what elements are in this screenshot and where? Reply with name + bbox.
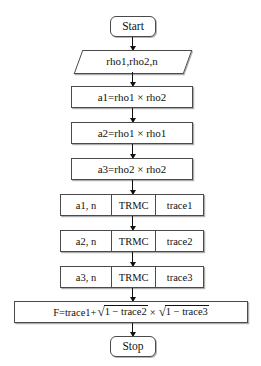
formula-radical-2: √1 − trace3 [158,304,209,320]
subroutine-1-output: trace1 [156,195,203,215]
arrow-p2-to-p3 [132,144,133,158]
subroutine-3-input: a3, n [61,267,112,287]
node-start[interactable]: Start [110,16,156,37]
subroutine-1-input: a1, n [61,195,112,215]
formula-operator: × [148,307,158,318]
node-formula[interactable]: F=trace1+√1 − trace2×√1 − trace3 [14,301,248,323]
subroutine-3-output: trace3 [156,267,203,287]
node-process-a2[interactable]: a2=rho1 × rho1 [71,122,193,144]
arrow-start-to-input [132,37,133,50]
arrow-formula-to-stop [132,323,133,336]
node-input[interactable]: rho1,rho2,n [78,50,186,72]
subroutine-2-name: TRMC [112,231,156,251]
node-process-a3[interactable]: a3=rho2 × rho2 [71,158,193,180]
arrow-sub1-to-sub2 [132,216,133,230]
subroutine-3-name: TRMC [112,267,156,287]
node-stop-label: Stop [122,341,143,353]
node-subroutine-trmc-2[interactable]: a2, n TRMC trace2 [60,230,204,252]
formula-radicand-1: 1 − trace2 [104,305,148,317]
formula-radicand-2: 1 − trace3 [165,305,209,317]
node-stop[interactable]: Stop [110,336,156,357]
arrow-p1-to-p2 [132,108,133,122]
arrow-p3-to-sub1 [132,180,133,194]
node-process-a3-label: a3=rho2 × rho2 [98,164,167,175]
subroutine-2-input: a2, n [61,231,112,251]
formula-prefix: F=trace1+ [53,307,96,318]
arrow-input-to-p1 [132,72,133,86]
formula-radical-1: √1 − trace2 [96,304,147,320]
node-start-label: Start [122,21,144,33]
node-subroutine-trmc-3[interactable]: a3, n TRMC trace3 [60,266,204,288]
node-process-a2-label: a2=rho1 × rho1 [98,128,167,139]
node-process-a1-label: a1=rho1 × rho2 [98,92,167,103]
arrow-sub3-to-formula [132,288,133,301]
subroutine-1-name: TRMC [112,195,156,215]
node-subroutine-trmc-1[interactable]: a1, n TRMC trace1 [60,194,204,216]
node-input-label: rho1,rho2,n [78,50,186,72]
flowchart-canvas: Start rho1,rho2,n a1=rho1 × rho2 a2=rho1… [0,0,261,366]
subroutine-2-output: trace2 [156,231,203,251]
node-process-a1[interactable]: a1=rho1 × rho2 [71,86,193,108]
arrow-sub2-to-sub3 [132,252,133,266]
